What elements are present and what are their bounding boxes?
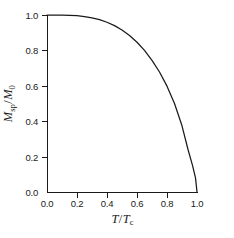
x-tick-label-1-0: 1.0 <box>185 198 209 209</box>
y-tick-label-0-0: 0.0 <box>25 187 38 198</box>
y-axis-title-numerator: M <box>1 112 15 122</box>
plot-area <box>47 15 197 192</box>
y-tick-label-0-6: 0.6 <box>25 81 38 92</box>
y-tick-label-0-2: 0.2 <box>25 152 38 163</box>
y-axis-title-denominator: M <box>1 89 15 99</box>
magnetization-curve <box>47 15 197 192</box>
x-tick-label-0-8: 0.8 <box>155 198 179 209</box>
magnetization-curve-svg <box>47 15 197 192</box>
y-axis-title: Msp/M0 <box>1 49 16 159</box>
x-tick-label-0-0: 0.0 <box>35 198 59 209</box>
x-tick-label-0-6: 0.6 <box>125 198 149 209</box>
x-axis-title-denominator: T <box>123 212 130 226</box>
x-axis-line <box>47 192 198 193</box>
y-tick-label-1-0: 1.0 <box>25 10 38 21</box>
y-axis-title-denominator-subscript: 0 <box>7 85 17 89</box>
x-axis-title: T/Tc <box>47 212 198 227</box>
chart-figure: Msp/M0 1.0 0.8 0.6 0.4 0.2 0.0 0.0 0.2 0… <box>0 0 234 238</box>
y-axis-title-slash: / <box>1 100 15 104</box>
y-axis-title-numerator-subscript: sp <box>7 104 17 112</box>
y-tick-label-0-4: 0.4 <box>25 116 38 127</box>
x-tick-label-0-4: 0.4 <box>95 198 119 209</box>
y-tick-label-0-8: 0.8 <box>25 45 38 56</box>
x-axis-title-denominator-subscript: c <box>130 217 134 227</box>
y-axis-title-container: Msp/M0 <box>0 0 16 238</box>
x-tick-label-0-2: 0.2 <box>65 198 89 209</box>
